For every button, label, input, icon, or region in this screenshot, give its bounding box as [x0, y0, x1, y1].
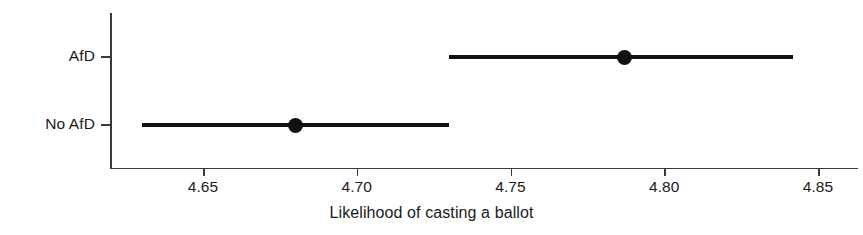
coefficient-plot-figure: 4.654.704.754.804.85 AfDNo AfD Likelihoo… — [0, 0, 863, 235]
interval-series-group — [0, 0, 863, 235]
point-estimate-marker — [617, 50, 632, 65]
x-axis-title: Likelihood of casting a ballot — [0, 204, 863, 222]
point-estimate-marker — [288, 118, 303, 133]
